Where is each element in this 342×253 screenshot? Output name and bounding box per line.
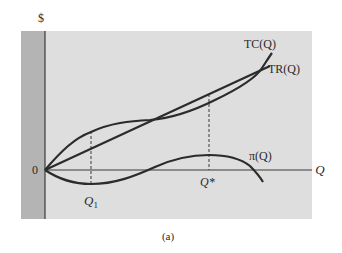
qstar-label: Q* <box>200 175 215 189</box>
x-axis-label: Q <box>315 162 325 177</box>
q1-subscript: 1 <box>93 200 98 210</box>
y-axis-strip <box>21 31 45 219</box>
tr-label: TR(Q) <box>268 62 300 76</box>
chart: $ 0 Q TC(Q) TR(Q) π(Q) Q1 Q* (a) <box>0 0 342 253</box>
origin-label: 0 <box>32 163 38 177</box>
tc-label: TC(Q) <box>244 37 276 51</box>
y-axis-label: $ <box>38 11 44 25</box>
caption: (a) <box>162 230 175 243</box>
profit-label: π(Q) <box>249 149 272 163</box>
